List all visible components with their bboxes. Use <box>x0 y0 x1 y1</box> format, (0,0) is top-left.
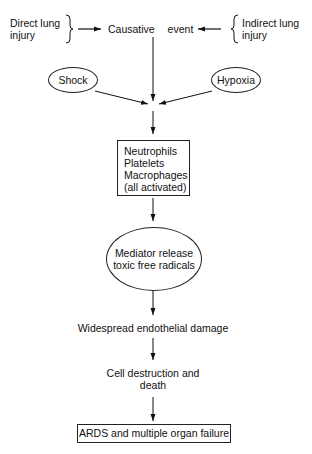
hypoxia-node: Hypoxia <box>211 67 261 93</box>
direct-lung-injury-label: Direct lung injury <box>10 17 60 41</box>
hypoxia-label: Hypoxia <box>217 74 255 86</box>
shock-node: Shock <box>48 67 98 93</box>
causative-event-node: Causative event <box>108 23 193 35</box>
cell-death-node: Cell destruction and death <box>80 367 226 391</box>
cell-death-line2: death <box>80 379 226 391</box>
mediator-release-node: Mediator release toxic free radicals <box>106 227 202 291</box>
indirect-lung-injury-label: Indirect lung injury <box>242 17 299 41</box>
indirect-lung-injury-line2: injury <box>242 29 299 41</box>
direct-lung-injury-line1: Direct lung <box>10 17 60 29</box>
shock-label: Shock <box>58 74 87 86</box>
cell-death-line1: Cell destruction and <box>80 367 226 379</box>
cells-line3: Macrophages <box>124 169 189 181</box>
cells-line1: Neutrophils <box>124 145 189 157</box>
left-brace <box>66 15 73 43</box>
right-brace <box>231 15 238 43</box>
activated-cells-node: Neutrophils Platelets Macrophages (all a… <box>117 140 190 196</box>
indirect-lung-injury-line1: Indirect lung <box>242 17 299 29</box>
endothelial-damage-node: Widespread endothelial damage <box>60 322 246 334</box>
mediator-line2: toxic free radicals <box>113 259 195 271</box>
cells-line2: Platelets <box>124 157 189 169</box>
cells-line4: (all activated) <box>124 181 189 193</box>
ards-outcome-node: ARDS and multiple organ failure <box>77 424 231 443</box>
mediator-line1: Mediator release <box>113 247 195 259</box>
direct-lung-injury-line2: injury <box>10 29 60 41</box>
ards-outcome-label: ARDS and multiple organ failure <box>79 427 229 439</box>
